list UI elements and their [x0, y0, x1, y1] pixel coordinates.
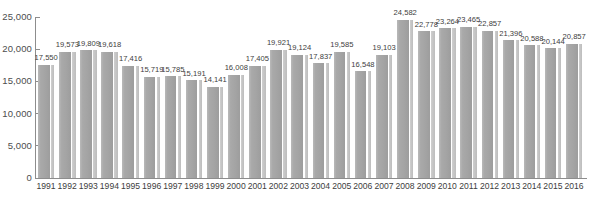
bar-highlight	[262, 66, 265, 178]
x-axis-tick-label: 2007	[373, 182, 394, 191]
bar-body	[270, 50, 282, 178]
y-axis-tick-label: 25,000	[2, 12, 32, 22]
y-axis-tick-label: 15,000	[2, 76, 32, 86]
bar	[291, 55, 307, 178]
bar	[270, 50, 286, 178]
bar	[38, 65, 54, 178]
bar	[566, 44, 582, 178]
bar-value-label: 19,618	[98, 41, 121, 49]
bar-group: 14,141	[207, 17, 228, 178]
bar-value-label: 19,573	[56, 41, 79, 49]
bar-value-label: 21,396	[499, 30, 522, 38]
bar-highlight	[136, 66, 139, 178]
bar-body	[418, 31, 430, 178]
bar-group: 17,416	[122, 17, 143, 178]
bar-value-label: 16,548	[351, 61, 374, 69]
x-axis-tick-label: 1995	[120, 182, 141, 191]
bar-highlight	[516, 40, 519, 178]
x-axis-tick-label: 2000	[226, 182, 247, 191]
bar-value-label: 20,144	[541, 38, 564, 46]
bar-highlight	[368, 71, 371, 178]
bar-highlight	[452, 28, 455, 178]
bar-body	[355, 71, 367, 178]
bar	[228, 75, 244, 178]
y-axis-tick-label: 20,000	[2, 44, 32, 54]
bar	[418, 31, 434, 178]
bar-body	[186, 80, 198, 178]
bar-body	[291, 55, 303, 178]
bar-highlight	[283, 50, 286, 178]
bar-group: 24,582	[397, 17, 418, 178]
bar-highlight	[495, 31, 498, 178]
bar-group: 15,719	[144, 17, 165, 178]
bar	[460, 27, 476, 178]
x-axis-tick-label: 1999	[204, 182, 225, 191]
bar-value-label: 23,264	[436, 18, 459, 26]
bar-group: 22,778	[418, 17, 439, 178]
bar-group: 15,191	[186, 17, 207, 178]
bar	[376, 55, 392, 178]
bar-value-label: 24,582	[394, 9, 417, 17]
bar	[165, 76, 181, 178]
x-axis-tick-label: 2009	[416, 182, 437, 191]
bar-highlight	[241, 75, 244, 178]
bar-highlight	[114, 52, 117, 178]
bar-value-label: 16,008	[225, 64, 248, 72]
bar-value-label: 19,585	[330, 41, 353, 49]
bar-body	[334, 52, 346, 178]
x-axis-tick-label: 1993	[78, 182, 99, 191]
y-axis-tick-label: 5,000	[8, 141, 32, 151]
bar-highlight	[326, 63, 329, 178]
x-axis-tick-label: 2014	[521, 182, 542, 191]
bar-body	[80, 50, 92, 178]
x-axis-tick-label: 2011	[458, 182, 479, 191]
bar	[59, 52, 75, 178]
bar	[503, 40, 519, 178]
bar-value-label: 15,191	[182, 70, 205, 78]
bar-highlight	[389, 55, 392, 178]
bar-value-label: 22,778	[415, 21, 438, 29]
bar-value-label: 19,809	[77, 40, 100, 48]
bar-value-label: 17,405	[246, 55, 269, 63]
bar	[545, 48, 561, 178]
bar-value-label: 17,550	[35, 54, 58, 62]
bar-group: 23,264	[439, 17, 460, 178]
bar	[524, 45, 540, 178]
y-axis-tick-label: 0	[27, 173, 32, 183]
bar-body	[503, 40, 515, 178]
bar	[313, 63, 329, 178]
x-axis-tick-label: 2008	[395, 182, 416, 191]
bar-value-label: 22,857	[478, 20, 501, 28]
x-axis-tick-label: 1994	[99, 182, 120, 191]
x-axis-tick-label: 1998	[183, 182, 204, 191]
x-axis-tick-label: 2013	[500, 182, 521, 191]
bar-highlight	[537, 45, 540, 178]
bar-group: 22,857	[482, 17, 503, 178]
bar	[144, 77, 160, 178]
bar-highlight	[410, 20, 413, 178]
bar-value-label: 20,588	[520, 35, 543, 43]
bar-group: 16,008	[228, 17, 249, 178]
x-axis-tick-label: 2015	[542, 182, 563, 191]
bar-group: 23,465	[460, 17, 481, 178]
bar-group: 19,124	[291, 17, 312, 178]
bar-body	[566, 44, 578, 178]
bar-value-label: 14,141	[204, 76, 227, 84]
bar-group: 15,785	[165, 17, 186, 178]
bar	[439, 28, 455, 178]
bar-highlight	[157, 77, 160, 178]
bar-body	[207, 87, 219, 178]
bar	[249, 66, 265, 178]
bar-body	[228, 75, 240, 178]
bar	[101, 52, 117, 178]
bar	[482, 31, 498, 178]
x-axis-tick-label: 1996	[141, 182, 162, 191]
bar-group: 19,585	[334, 17, 355, 178]
bar-body	[482, 31, 494, 178]
x-axis-tick-label: 1991	[36, 182, 57, 191]
bar-value-label: 23,465	[457, 16, 480, 24]
bar	[122, 66, 138, 178]
bar-group: 19,103	[376, 17, 397, 178]
x-axis-tick-label: 2004	[310, 182, 331, 191]
x-axis-tick-label: 2001	[247, 182, 268, 191]
